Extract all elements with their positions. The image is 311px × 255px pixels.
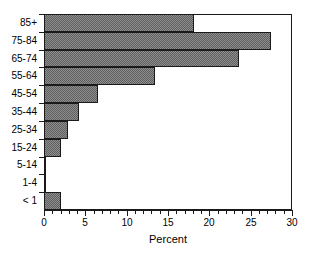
x-tick-minor (118, 211, 119, 214)
y-tick (39, 139, 44, 140)
x-tick-major (168, 211, 169, 216)
y-tick (39, 32, 44, 33)
bars-layer (44, 14, 292, 210)
y-axis-tick-label: 45-54 (11, 89, 37, 99)
x-tick-minor (151, 211, 152, 214)
x-tick-minor (102, 211, 103, 214)
y-tick (39, 14, 44, 15)
bar-row (44, 192, 292, 210)
y-axis-tick-label: 15-24 (11, 143, 37, 153)
x-tick-major (85, 211, 86, 216)
x-tick-minor (234, 211, 235, 214)
y-tick (39, 174, 44, 175)
y-axis-tick-label: 55-64 (11, 71, 37, 81)
bar-1 (44, 192, 61, 210)
x-tick-major (251, 211, 252, 216)
bar-row (44, 50, 292, 68)
x-tick-minor (275, 211, 276, 214)
bar-row (44, 157, 292, 175)
y-tick (39, 121, 44, 122)
bar-15-24 (44, 139, 61, 157)
y-axis-tick-label: 5-14 (17, 160, 37, 170)
x-axis-tick-label: 5 (70, 218, 100, 228)
bar-row (44, 32, 292, 50)
bar-65-74 (44, 50, 239, 68)
x-axis-tick-label: 25 (236, 218, 266, 228)
bar-85 (44, 14, 194, 32)
y-tick (39, 103, 44, 104)
x-tick-minor (110, 211, 111, 214)
bar-row (44, 85, 292, 103)
x-tick-minor (176, 211, 177, 214)
x-tick-minor (143, 211, 144, 214)
y-axis-tick-label: 65-74 (11, 54, 37, 64)
x-axis-tick-label: 30 (277, 218, 307, 228)
x-tick-minor (242, 211, 243, 214)
y-tick (39, 85, 44, 86)
y-axis-tick-label: 85+ (20, 18, 37, 28)
x-tick-major (292, 211, 293, 216)
x-tick-minor (69, 211, 70, 214)
x-tick-minor (77, 211, 78, 214)
bar-row (44, 67, 292, 85)
y-axis-line (44, 14, 45, 211)
x-tick-minor (226, 211, 227, 214)
bar-row (44, 103, 292, 121)
x-tick-minor (160, 211, 161, 214)
y-tick (39, 157, 44, 158)
x-axis-tick-label: 15 (153, 218, 183, 228)
x-tick-minor (284, 211, 285, 214)
bar-row (44, 121, 292, 139)
y-axis-tick-label: 35-44 (11, 107, 37, 117)
x-tick-major (127, 211, 128, 216)
y-axis-tick-label: 75-84 (11, 36, 37, 46)
y-axis-tick-label: < 1 (23, 196, 37, 206)
bar-row (44, 174, 292, 192)
x-tick-minor (193, 211, 194, 214)
x-tick-minor (259, 211, 260, 214)
y-tick (39, 50, 44, 51)
x-tick-minor (61, 211, 62, 214)
bar-45-54 (44, 85, 98, 103)
y-axis-tick-label: 25-34 (11, 125, 37, 135)
x-axis-tick-label: 20 (194, 218, 224, 228)
x-tick-minor (201, 211, 202, 214)
chart-title (0, 0, 311, 2)
bar-row (44, 139, 292, 157)
bar-35-44 (44, 103, 79, 121)
x-axis-title: Percent (44, 233, 292, 245)
x-tick-minor (185, 211, 186, 214)
x-tick-major (44, 211, 45, 216)
bar-55-64 (44, 67, 155, 85)
x-tick-minor (218, 211, 219, 214)
y-axis-tick-label: 1-4 (23, 178, 37, 188)
y-tick (39, 192, 44, 193)
x-tick-minor (52, 211, 53, 214)
x-axis-tick-label: 10 (112, 218, 142, 228)
bar-chart: 85+75-8465-7455-6445-5435-4425-3415-245-… (0, 0, 311, 255)
bar-75-84 (44, 32, 271, 50)
bar-25-34 (44, 121, 68, 139)
y-tick (39, 67, 44, 68)
bar-row (44, 14, 292, 32)
x-tick-minor (135, 211, 136, 214)
x-axis-tick-label: 0 (29, 218, 59, 228)
x-tick-major (209, 211, 210, 216)
x-tick-minor (267, 211, 268, 214)
x-tick-minor (94, 211, 95, 214)
